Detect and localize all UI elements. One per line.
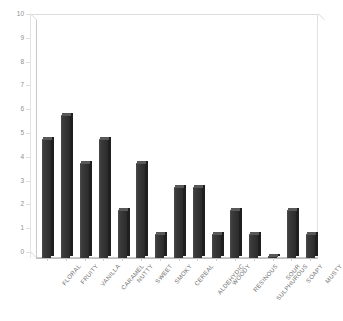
x-axis-category-label: SWEET: [155, 263, 174, 285]
bar: [118, 210, 127, 258]
y-axis-tick-mark: [26, 62, 30, 63]
x-axis-tick-mark: [47, 258, 48, 261]
bar-side-face: [296, 208, 299, 256]
bar-side-face: [70, 113, 73, 256]
bar-top-face: [137, 161, 146, 164]
y-axis-tick-label: 9: [2, 35, 24, 42]
bar-front-face: [306, 234, 315, 258]
x-axis-tick-mark: [122, 258, 123, 261]
x-axis-category-label: FRUITY: [80, 263, 100, 285]
y-axis-tick-mark: [26, 181, 30, 182]
chart-back-left-axis: [30, 14, 31, 258]
y-axis-tick-mark: [26, 157, 30, 158]
y-axis-tick-label: 2: [2, 201, 24, 208]
y-axis-tick-mark: [26, 85, 30, 86]
bar: [42, 139, 51, 258]
bar-front-face: [61, 115, 70, 258]
bar: [136, 163, 145, 258]
y-axis-tick-mark: [26, 252, 30, 253]
y-axis-tick-label: 10: [2, 11, 24, 18]
plot-area: [36, 20, 318, 258]
bar: [174, 187, 183, 258]
bar-front-face: [249, 234, 258, 258]
y-axis-tick-label: 8: [2, 59, 24, 66]
y-axis-tick-mark: [26, 14, 30, 15]
y-axis-tick-mark: [26, 133, 30, 134]
bar-top-face: [307, 232, 316, 235]
x-axis-tick-mark: [216, 258, 217, 261]
x-axis-tick-mark: [310, 258, 311, 261]
bar-side-face: [221, 232, 224, 256]
bar-top-face: [100, 137, 109, 140]
bar-front-face: [80, 163, 89, 258]
y-axis-tick-label: 3: [2, 178, 24, 185]
bar-side-face: [108, 137, 111, 256]
y-axis-tick-label: 4: [2, 154, 24, 161]
bar-top-face: [213, 232, 222, 235]
x-axis-tick-mark: [179, 258, 180, 261]
x-axis-tick-mark: [254, 258, 255, 261]
y-axis-tick-mark: [26, 38, 30, 39]
x-axis-category-label: SMOKY: [174, 263, 194, 285]
bar: [99, 139, 108, 258]
bar-front-face: [42, 139, 51, 258]
bar: [230, 210, 239, 258]
bar: [306, 234, 315, 258]
bar-top-face: [81, 161, 90, 164]
bar-top-face: [43, 137, 52, 140]
bar: [287, 210, 296, 258]
bar-top-face: [119, 208, 128, 211]
x-axis-tick-mark: [66, 258, 67, 261]
x-axis-tick-mark: [141, 258, 142, 261]
y-axis-tick-label: 6: [2, 106, 24, 113]
x-axis-tick-mark: [85, 258, 86, 261]
bar-side-face: [258, 232, 261, 256]
bar-front-face: [136, 163, 145, 258]
y-axis-tick-label: 7: [2, 82, 24, 89]
x-axis-category-label: FLORAL: [61, 263, 82, 286]
x-axis-tick-mark: [235, 258, 236, 261]
bar-top-face: [288, 208, 297, 211]
bar-side-face: [127, 208, 130, 256]
bar-side-face: [89, 161, 92, 256]
x-axis-tick-mark: [197, 258, 198, 261]
bar-side-face: [239, 208, 242, 256]
bar: [249, 234, 258, 258]
x-axis-category-label: CEREAL: [193, 263, 214, 287]
x-axis-category-label: VANILLA: [100, 263, 122, 287]
bar-top-face: [62, 113, 71, 116]
bar-front-face: [99, 139, 108, 258]
x-axis-tick-mark: [291, 258, 292, 261]
x-axis-tick-mark: [103, 258, 104, 261]
x-axis-category-label: RESINOUS: [253, 263, 280, 293]
x-axis-category-label: MUSTY: [324, 263, 343, 284]
bar-side-face: [183, 185, 186, 256]
bar: [193, 187, 202, 258]
y-axis-tick-label: 0: [2, 249, 24, 256]
bar-top-face: [269, 254, 278, 257]
bar-side-face: [315, 232, 318, 256]
bar: [155, 234, 164, 258]
y-axis-tick-mark: [26, 204, 30, 205]
bar-side-face: [145, 161, 148, 256]
bar-front-face: [174, 187, 183, 258]
bar-front-face: [212, 234, 221, 258]
bar: [212, 234, 221, 258]
bar-front-face: [155, 234, 164, 258]
bar-top-face: [156, 232, 165, 235]
bar-top-face: [175, 185, 184, 188]
bar-side-face: [202, 185, 205, 256]
y-axis-tick-mark: [26, 228, 30, 229]
bar-front-face: [118, 210, 127, 258]
bar-front-face: [193, 187, 202, 258]
bar: [61, 115, 70, 258]
y-axis-tick-label: 5: [2, 130, 24, 137]
bar: [80, 163, 89, 258]
y-axis-tick-label: 1: [2, 225, 24, 232]
x-axis-tick-mark: [273, 258, 274, 261]
bar-side-face: [164, 232, 167, 256]
bar-top-face: [194, 185, 203, 188]
y-axis-tick-mark: [26, 109, 30, 110]
depth-edge-top-right: [318, 13, 325, 20]
